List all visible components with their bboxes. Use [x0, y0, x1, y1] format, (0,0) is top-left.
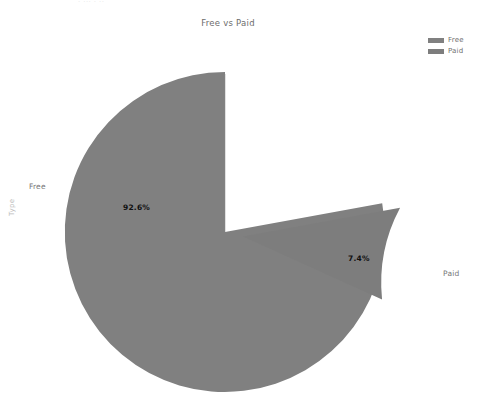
category-label-paid: Paid [443, 269, 459, 278]
category-label-free: Free [29, 182, 46, 191]
value-label-free: 92.6% [123, 203, 150, 212]
pie-chart [0, 0, 490, 416]
value-label-paid: 7.4% [348, 254, 370, 263]
chart-canvas: · ··· · ·· Free vs Paid Free Paid Type F… [0, 0, 490, 416]
